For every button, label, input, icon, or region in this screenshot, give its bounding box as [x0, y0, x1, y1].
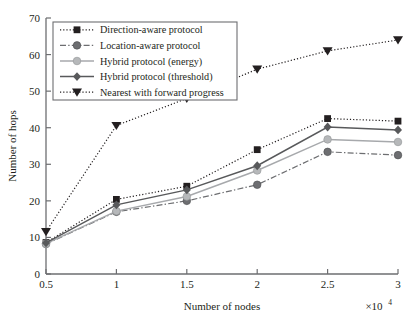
data-point [41, 228, 51, 236]
x-tick-label: 2 [254, 278, 260, 290]
y-tick-label: 30 [29, 158, 41, 170]
y-tick-label: 50 [29, 85, 41, 97]
data-point [394, 138, 402, 146]
series-line-2 [46, 139, 398, 243]
series-line-1 [46, 152, 398, 244]
legend-marker-1 [73, 42, 81, 50]
series-3 [42, 123, 402, 248]
legend-label-1: Location-aware protocol [100, 40, 201, 51]
line-chart: 0102030405060700.511.522.53Number of nod… [0, 0, 412, 331]
chart-container: 0102030405060700.511.522.53Number of nod… [0, 0, 412, 331]
y-tick-label: 20 [29, 195, 41, 207]
data-point [252, 66, 262, 74]
series-line-3 [46, 127, 398, 243]
y-tick-label: 70 [29, 12, 41, 24]
data-point [111, 122, 121, 130]
data-point [395, 118, 402, 125]
x-axis-multiplier: ×104 [365, 298, 392, 312]
data-point [324, 115, 331, 122]
legend: Direction-aware protocolLocation-aware p… [53, 22, 237, 100]
y-tick-label: 10 [29, 231, 41, 243]
data-point [254, 146, 261, 153]
x-tick-label: 1.5 [180, 278, 194, 290]
legend-marker-2 [73, 57, 81, 65]
legend-label-0: Direction-aware protocol [100, 24, 203, 35]
data-point [323, 47, 333, 55]
x-tick-label: 1 [114, 278, 120, 290]
data-point [324, 136, 332, 144]
x-axis-multiplier-exponent: 4 [388, 298, 392, 307]
y-axis-title: Number of hops [6, 110, 18, 182]
data-point [394, 151, 402, 159]
y-tick-label: 40 [29, 122, 41, 134]
legend-label-3: Hybrid protocol (threshold) [100, 71, 213, 83]
data-point [324, 123, 332, 132]
series-line-0 [46, 119, 398, 243]
legend-label-2: Hybrid protocol (energy) [100, 56, 202, 68]
legend-marker-0 [74, 26, 81, 33]
y-tick-label: 60 [29, 49, 41, 61]
data-point [253, 181, 261, 189]
x-axis-multiplier-base: ×10 [365, 300, 383, 312]
series-1 [42, 148, 402, 248]
series-0 [43, 115, 402, 246]
x-tick-label: 0.5 [39, 278, 53, 290]
legend-label-4: Nearest with forward progress [100, 87, 224, 98]
data-point [324, 148, 332, 156]
x-axis-title: Number of nodes [184, 300, 260, 312]
x-tick-label: 3 [395, 278, 401, 290]
x-tick-label: 2.5 [321, 278, 335, 290]
data-point [394, 126, 402, 135]
